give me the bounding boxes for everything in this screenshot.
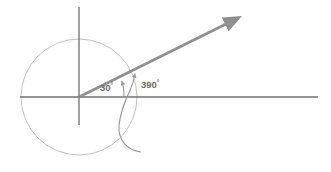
angle-diagram-canvas: 30° 390° [0, 0, 331, 172]
coterminal-angle-label: 390° [141, 79, 160, 91]
coterminal-angle-figure: 30° 390° [0, 0, 331, 172]
coterminal-angle-arc [119, 76, 141, 152]
coterminal-angle-degree-symbol: ° [157, 79, 160, 86]
inner-angle-degree-symbol: ° [111, 82, 114, 89]
inner-angle-label: 30° [100, 82, 114, 94]
coterminal-angle-value: 390 [141, 79, 157, 90]
inner-angle-arc [123, 84, 125, 98]
inner-angle-value: 30 [100, 82, 111, 93]
